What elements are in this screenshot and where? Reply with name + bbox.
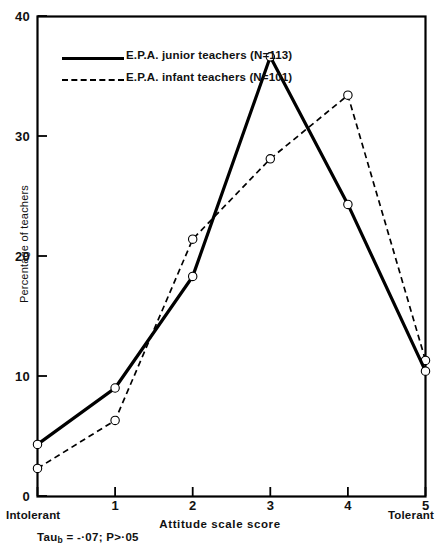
data-point-marker bbox=[189, 272, 197, 280]
series-infant-teachers bbox=[33, 91, 429, 473]
data-point-marker bbox=[421, 367, 429, 375]
data-point-marker bbox=[266, 155, 274, 163]
legend-item-junior: E.P.A. junior teachers (N=113) bbox=[62, 48, 302, 70]
data-point-marker bbox=[33, 464, 41, 472]
data-point-marker bbox=[344, 200, 352, 208]
statistic-annotation: Taub = -·07; P>·05 bbox=[37, 531, 139, 543]
statistic-value: = -·07; P>·05 bbox=[63, 531, 139, 543]
y-axis-ticks bbox=[38, 16, 48, 496]
x-axis-high-pole-label: Tolerant bbox=[388, 509, 434, 521]
data-point-marker bbox=[189, 235, 197, 243]
y-axis-title: Percentage of teachers bbox=[18, 144, 30, 344]
legend-item-infant: E.P.A. infant teachers (N=101) bbox=[62, 70, 302, 92]
legend-line-dashed-icon bbox=[62, 79, 124, 81]
x-tick-label-3: 3 bbox=[260, 498, 280, 513]
statistic-subscript: b bbox=[58, 535, 64, 545]
y-tick-label-20: 20 bbox=[4, 249, 30, 264]
x-tick-label-2: 2 bbox=[183, 498, 203, 513]
x-tick-label-1: 1 bbox=[105, 498, 125, 513]
y-tick-label-40: 40 bbox=[4, 9, 30, 24]
y-tick-label-10: 10 bbox=[4, 369, 30, 384]
legend-item-label: E.P.A. junior teachers (N=113) bbox=[126, 49, 292, 61]
x-axis-ticks bbox=[38, 487, 426, 496]
legend-line-solid-icon bbox=[62, 57, 124, 60]
x-axis-title: Attitude scale score bbox=[140, 518, 300, 530]
data-point-marker bbox=[33, 440, 41, 448]
x-axis-low-pole-label: Intolerant bbox=[6, 509, 60, 521]
data-point-marker bbox=[344, 91, 352, 99]
data-point-marker bbox=[111, 384, 119, 392]
chart-figure: Percentage of teachers 40 30 20 10 0 1 2… bbox=[0, 0, 440, 549]
data-point-marker bbox=[111, 416, 119, 424]
legend-item-label: E.P.A. infant teachers (N=101) bbox=[126, 71, 292, 83]
statistic-symbol: Tau bbox=[37, 531, 58, 543]
x-tick-label-4: 4 bbox=[338, 498, 358, 513]
chart-legend: E.P.A. junior teachers (N=113) E.P.A. in… bbox=[62, 48, 302, 92]
y-tick-label-0: 0 bbox=[4, 489, 30, 504]
series-junior-teachers bbox=[33, 53, 429, 449]
y-tick-label-30: 30 bbox=[4, 129, 30, 144]
